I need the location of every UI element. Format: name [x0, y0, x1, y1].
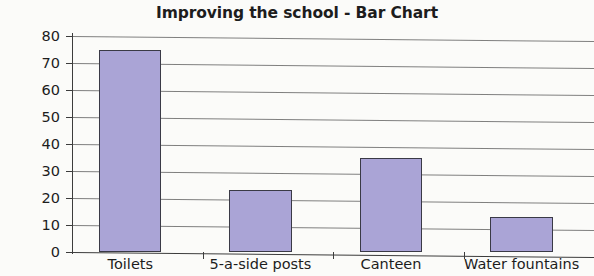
y-axis-tick-mark — [66, 36, 73, 37]
bar — [99, 50, 162, 253]
y-axis-tick-mark — [66, 90, 73, 91]
y-axis-tick-label: 20 — [20, 190, 60, 206]
x-axis-tick-mark — [203, 252, 204, 259]
y-axis-tick-label: 10 — [20, 217, 60, 233]
y-axis-tick-mark — [66, 252, 73, 253]
y-axis-tick-label: 30 — [20, 163, 60, 179]
x-axis-tick-labels: Toilets5-a-side postsCanteenWater founta… — [0, 254, 594, 276]
gridline — [72, 36, 594, 42]
y-axis-tick-label: 40 — [20, 136, 60, 152]
y-axis-tick-mark — [66, 225, 73, 226]
bar-chart: Improving the school - Bar Chart 0102030… — [0, 0, 594, 276]
plot-area — [72, 36, 594, 252]
bar — [490, 217, 553, 252]
y-axis-tick-mark — [66, 117, 73, 118]
y-axis-tick-mark — [66, 198, 73, 199]
y-axis-tick-label: 50 — [20, 109, 60, 125]
y-axis-tick-mark — [66, 63, 73, 64]
bar — [360, 158, 423, 253]
y-axis-tick-mark — [66, 144, 73, 145]
x-axis-tick-label: 5-a-side posts — [210, 256, 312, 272]
y-axis-tick-label: 70 — [20, 55, 60, 71]
x-axis-tick-label: Canteen — [361, 256, 422, 272]
x-axis-tick-label: Toilets — [108, 256, 153, 272]
y-axis-tick-mark — [66, 171, 73, 172]
y-axis-tick-labels: 01020304050607080 — [16, 0, 60, 276]
bar — [229, 190, 292, 252]
x-axis-tick-mark — [464, 252, 465, 259]
x-axis-tick-label: Water fountains — [464, 256, 579, 272]
y-axis-tick-label: 80 — [20, 28, 60, 44]
chart-title: Improving the school - Bar Chart — [0, 4, 594, 22]
y-axis-tick-label: 60 — [20, 82, 60, 98]
x-axis-tick-mark — [333, 252, 334, 259]
